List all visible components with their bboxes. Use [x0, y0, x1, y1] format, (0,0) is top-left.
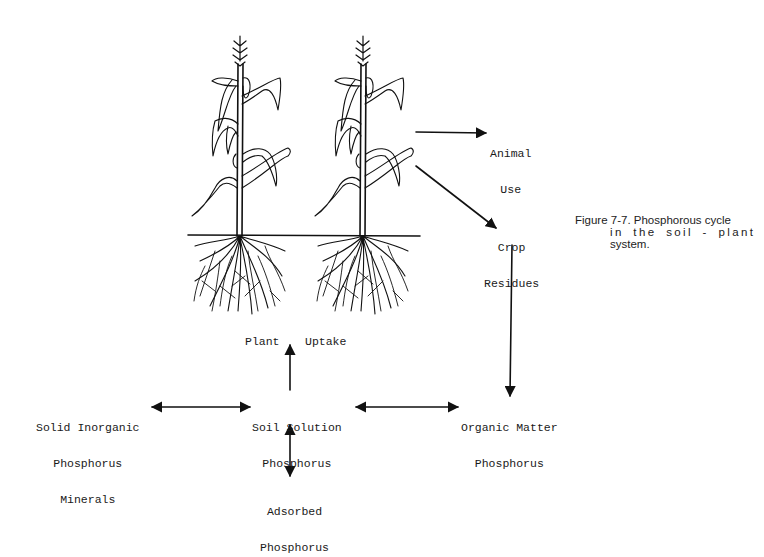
- label-line: Crop: [484, 242, 539, 254]
- label-line: Phosphorus: [461, 458, 558, 470]
- arrow-to-animal-use: [416, 132, 486, 133]
- corn-plant-icon: [315, 36, 413, 314]
- label-line: Organic Matter: [461, 422, 558, 434]
- label-line: Use: [490, 184, 531, 196]
- caption-line: in the soil - plant: [575, 226, 755, 238]
- node-organic-matter: Organic Matter Phosphorus: [461, 398, 558, 494]
- corn-plant-icon: [192, 36, 290, 314]
- node-solid-inorganic: Solid Inorganic Phosphorus Minerals: [36, 398, 140, 530]
- label-line: Animal: [490, 148, 531, 160]
- caption-line: Figure 7-7. Phosphorous cycle: [575, 214, 755, 226]
- node-animal-use: Animal Use: [490, 124, 531, 220]
- soil-surface-line: [188, 235, 420, 236]
- plant-uptake-right: Uptake: [305, 336, 346, 348]
- label-line: Soil Solution: [252, 422, 342, 434]
- label-line: Solid Inorganic: [36, 422, 140, 434]
- figure-caption: Figure 7-7. Phosphorous cycle in the soi…: [575, 214, 755, 250]
- label-line: Phosphorus: [260, 542, 329, 554]
- node-adsorbed: Adsorbed Phosphorus: [260, 482, 329, 557]
- label-line: Minerals: [36, 494, 140, 506]
- label-line: Phosphorus: [252, 458, 342, 470]
- label-line: Adsorbed: [260, 506, 329, 518]
- plant-uptake-left: Plant: [245, 336, 280, 348]
- label-line: Residues: [484, 278, 539, 290]
- caption-line: system.: [575, 238, 755, 250]
- label-line: Phosphorus: [36, 458, 140, 470]
- node-crop-residues: Crop Residues: [484, 218, 539, 314]
- node-soil-solution: Soil Solution Phosphorus: [252, 398, 342, 494]
